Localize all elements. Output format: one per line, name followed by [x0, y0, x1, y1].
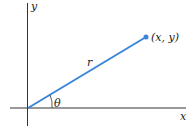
point-label: (x, y)	[151, 31, 179, 44]
angle-arc	[50, 95, 52, 108]
polar-diagram: y x r (x, y) θ	[0, 0, 194, 130]
radius-line	[28, 37, 146, 108]
y-axis-label: y	[30, 0, 38, 13]
point-marker	[144, 35, 149, 40]
x-axis-label: x	[180, 110, 187, 123]
radius-label: r	[87, 56, 93, 69]
angle-label: θ	[54, 97, 61, 110]
